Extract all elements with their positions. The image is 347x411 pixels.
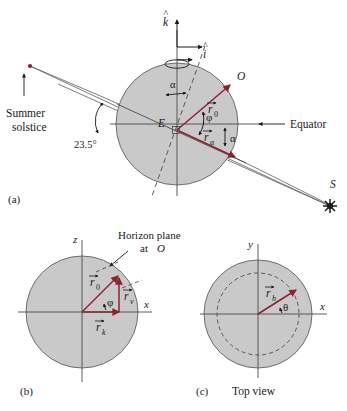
svg-text:r: r — [90, 276, 95, 288]
sun-starburst-icon — [323, 199, 337, 213]
figure-canvas: Summer solstice 23.5° Equator E O S k ^ … — [0, 0, 347, 411]
svg-text:r: r — [208, 103, 213, 115]
unit-vector-i-label: i ^ — [203, 40, 208, 60]
summer-solstice-label-line1: Summer — [6, 107, 45, 119]
earth-center-label: E — [157, 117, 165, 129]
panel-b-x-axis-label: x — [143, 298, 149, 310]
panel-b-z-axis-label: z — [72, 233, 78, 245]
panel-c-theta-label: θ — [283, 301, 288, 313]
summer-solstice-label-line2: solstice — [12, 121, 47, 133]
panel-b-phi-label: φ — [107, 296, 113, 308]
panel-a-alpha-top-label: α — [170, 79, 176, 90]
svg-text:v: v — [130, 297, 134, 306]
unit-vector-k-label: k ^ — [163, 8, 169, 28]
tilt-angle-label: 23.5° — [74, 139, 97, 150]
svg-text:k: k — [102, 328, 106, 337]
svg-text:0: 0 — [96, 283, 100, 292]
earth-solar-geometry-figure: Summer solstice 23.5° Equator E O S k ^ … — [0, 0, 347, 411]
panel-b-label: (b) — [20, 385, 33, 398]
svg-text:^: ^ — [164, 8, 169, 19]
svg-text:r: r — [204, 131, 209, 143]
horizon-plane-label-line1: Horizon plane — [118, 229, 181, 241]
svg-text:r: r — [266, 287, 271, 299]
svg-text:0: 0 — [214, 110, 218, 119]
sun-point-label: S — [330, 178, 336, 190]
horizon-plane-point-label: O — [157, 242, 165, 254]
panel-c-graphics — [200, 244, 327, 378]
svg-text:r: r — [124, 290, 129, 302]
panel-a-alpha-bottom-label: α — [230, 133, 236, 144]
tilt-angle-arc — [95, 103, 103, 133]
panel-c-label: (c) — [196, 385, 209, 398]
observer-label: O — [237, 70, 246, 82]
panel-a-graphics — [24, 20, 337, 213]
horizon-plane-pointer — [110, 251, 128, 266]
svg-text:^: ^ — [203, 40, 208, 51]
horizon-plane-label-line2: at — [140, 242, 148, 254]
summer-solstice-point — [28, 64, 32, 68]
panel-c-caption: Top view — [232, 385, 276, 398]
panel-a-label: (a) — [8, 193, 21, 206]
svg-text:h: h — [272, 294, 276, 303]
panel-c-y-axis-label: y — [247, 238, 253, 250]
equator-label: Equator — [290, 118, 327, 131]
svg-text:r: r — [96, 321, 101, 333]
panel-b-graphics — [18, 240, 152, 382]
panel-c-x-axis-label: x — [319, 300, 325, 312]
